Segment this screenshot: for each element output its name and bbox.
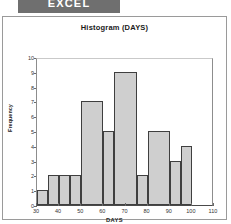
y-tick-label: 6 — [20, 114, 34, 120]
y-tick-label: 9 — [20, 70, 34, 76]
plot-area — [36, 58, 213, 206]
histogram-bar — [103, 131, 114, 205]
y-tick-label: 8 — [20, 85, 34, 91]
x-tick-mark — [102, 203, 103, 206]
x-tick-label: 40 — [48, 208, 68, 214]
histogram-bar — [59, 175, 70, 205]
histogram-bar — [148, 131, 170, 205]
x-tick-mark — [36, 203, 37, 206]
x-tick-mark — [191, 203, 192, 206]
x-tick-mark — [147, 203, 148, 206]
x-tick-label: 50 — [70, 208, 90, 214]
excel-banner: EXCEL — [18, 0, 120, 13]
y-tick-label: 10 — [20, 55, 34, 61]
x-tick-mark — [169, 203, 170, 206]
x-tick-label: 30 — [26, 208, 46, 214]
x-tick-label: 110 — [203, 208, 223, 214]
histogram-bar — [114, 72, 136, 205]
x-tick-mark — [80, 203, 81, 206]
histogram-bar — [48, 175, 59, 205]
histogram-bar — [181, 146, 192, 205]
histogram-bar — [37, 190, 48, 205]
histogram-bar — [170, 161, 181, 205]
y-tick-label: 1 — [20, 188, 34, 194]
x-tick-label: 100 — [181, 208, 201, 214]
y-tick-label: 7 — [20, 99, 34, 105]
histogram-bar — [137, 175, 148, 205]
x-tick-label: 80 — [137, 208, 157, 214]
x-tick-mark — [125, 203, 126, 206]
y-axis: 012345678910 — [3, 58, 34, 206]
y-tick-label: 3 — [20, 159, 34, 165]
y-tick-label: 2 — [20, 173, 34, 179]
histogram-bar — [81, 101, 103, 205]
x-tick-label: 90 — [159, 208, 179, 214]
y-tick-label: 4 — [20, 144, 34, 150]
x-tick-label: 60 — [92, 208, 112, 214]
x-tick-mark — [213, 203, 214, 206]
x-tick-label: 70 — [115, 208, 135, 214]
x-tick-mark — [58, 203, 59, 206]
chart-card: Histogram (DAYS) Frequency 012345678910 … — [2, 16, 227, 220]
excel-banner-label: EXCEL — [48, 0, 91, 9]
y-tick-label: 5 — [20, 129, 34, 135]
x-axis-label: DAYS — [3, 217, 226, 223]
histogram-bar — [70, 175, 81, 205]
chart-title: Histogram (DAYS) — [3, 23, 226, 32]
